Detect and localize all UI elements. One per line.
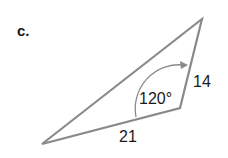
side-label-21: 21 bbox=[119, 128, 137, 146]
angle-arrowhead-icon bbox=[180, 61, 188, 69]
part-label: c. bbox=[17, 22, 30, 39]
angle-label: 120° bbox=[139, 90, 172, 108]
triangle bbox=[42, 19, 202, 144]
side-label-14: 14 bbox=[193, 73, 211, 91]
